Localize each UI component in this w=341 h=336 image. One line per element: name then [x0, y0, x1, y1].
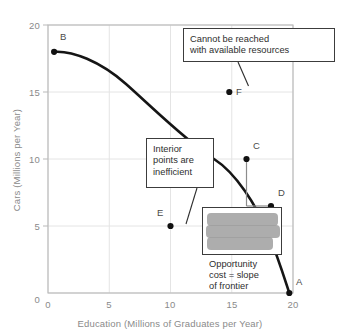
- point-label-a: A: [296, 276, 302, 287]
- y-tick-20: 20: [24, 20, 40, 31]
- y-axis-title: Cars (Millions per Year): [11, 109, 22, 211]
- callout-cannot-be-reached: Cannot be reached with available resourc…: [183, 28, 335, 62]
- point-f: [226, 89, 232, 95]
- y-tick-15: 15: [24, 87, 40, 98]
- y-axis-ticks: [43, 25, 48, 226]
- y-tick-5: 5: [24, 221, 40, 232]
- x-tick-20: 20: [288, 299, 299, 310]
- x-tick-0: 0: [45, 299, 50, 310]
- callout-interior-points: Interior points are inefficient: [146, 138, 214, 188]
- point-label-e: E: [157, 207, 163, 218]
- callout-opportunity-cost: Opportunity cost = slope of frontier: [202, 207, 282, 255]
- point-a: [286, 290, 292, 296]
- point-label-b: B: [60, 31, 66, 42]
- x-tick-10: 10: [165, 299, 176, 310]
- highlight-blob-3: [207, 237, 273, 250]
- point-b: [51, 49, 57, 55]
- point-c: [243, 156, 249, 162]
- x-tick-5: 5: [106, 299, 111, 310]
- x-axis-title: Education (Millions of Graduates per Yea…: [78, 318, 263, 329]
- y-tick-0: 0: [24, 294, 40, 305]
- y-tick-10: 10: [24, 154, 40, 165]
- point-label-f: F: [236, 86, 242, 97]
- x-tick-15: 15: [227, 299, 238, 310]
- point-e: [167, 223, 173, 229]
- point-label-d: D: [278, 187, 285, 198]
- point-label-c: C: [253, 140, 260, 151]
- ppf-chart: B F C D E A 20 15 10 5 0 0 5 10 15 20 Ed…: [0, 0, 341, 336]
